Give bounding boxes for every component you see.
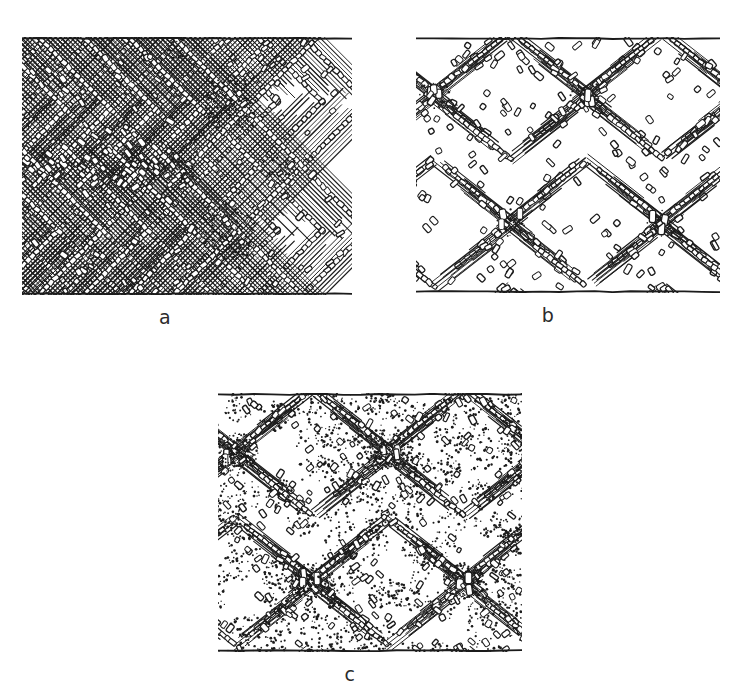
panel-b-artwork xyxy=(416,37,720,293)
panel-c-label: c xyxy=(330,664,370,684)
panel-c-artwork xyxy=(218,393,522,652)
panel-b xyxy=(416,37,720,293)
panel-c xyxy=(218,393,522,652)
panel-a-label: a xyxy=(145,307,185,327)
panel-b-label: b xyxy=(528,305,568,325)
figure-root: a b c xyxy=(0,0,740,696)
panel-a-artwork xyxy=(22,37,352,295)
panel-a xyxy=(22,37,352,295)
